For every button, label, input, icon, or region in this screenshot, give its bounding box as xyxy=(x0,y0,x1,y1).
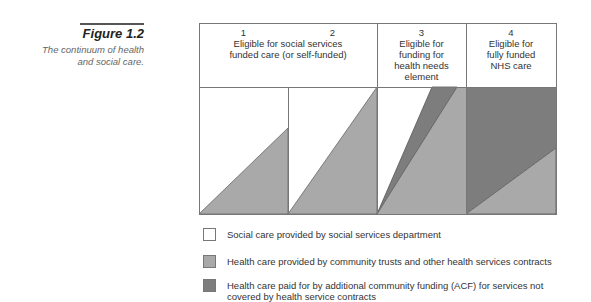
figure-title-rule xyxy=(80,23,144,25)
continuum-diagram: 1 2 Eligible for social services funded … xyxy=(199,23,557,215)
column-3-number: 3 xyxy=(385,27,458,38)
white-swatch-icon xyxy=(203,228,216,241)
light-gray-swatch-icon xyxy=(203,255,216,268)
column-4-header: 4 Eligible for fully funded NHS care xyxy=(466,23,556,87)
columns-1-2-merged-label: Eligible for social services funded care… xyxy=(199,38,377,60)
column-4-number: 4 xyxy=(480,27,542,38)
column-3-label: Eligible for funding for health needs el… xyxy=(385,38,458,82)
column-1-number: 1 xyxy=(199,27,288,38)
figure-title: Figure 1.2 xyxy=(83,26,144,41)
dark-gray-swatch-icon xyxy=(203,279,216,292)
column-4-label: Eligible for fully funded NHS care xyxy=(480,38,542,71)
column-3-header: 3 Eligible for funding for health needs … xyxy=(377,23,466,87)
figure-caption: The continuum of health and social care. xyxy=(24,44,144,68)
column-2-number: 2 xyxy=(288,27,377,38)
